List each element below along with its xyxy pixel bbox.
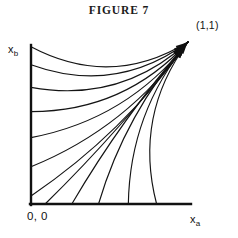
trajectory-curve	[128, 42, 188, 204]
trajectory-curves-group	[31, 42, 188, 204]
x-axis-label: xa	[190, 214, 200, 225]
figure-container: FIGURE 7 xb xa 0, 0 (1,1)	[0, 0, 238, 238]
x-axis-label-subscript: a	[196, 219, 200, 228]
trajectory-curve	[31, 42, 188, 112]
trajectory-curve	[31, 42, 188, 67]
attractor-point-label: (1,1)	[196, 20, 219, 31]
x-axis-label-text: x	[190, 213, 196, 225]
y-axis-label-subscript: b	[14, 49, 18, 58]
trajectory-plot	[0, 0, 238, 238]
origin-label: 0, 0	[27, 211, 48, 223]
y-axis-label: xb	[8, 44, 18, 55]
y-axis-label-text: x	[8, 43, 14, 55]
